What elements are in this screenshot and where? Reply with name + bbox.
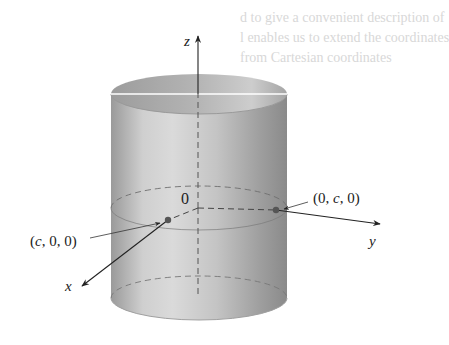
cylinder: [111, 74, 287, 320]
y-axis-label: y: [367, 233, 376, 249]
point-c-0-0-label: (c, 0, 0): [30, 233, 77, 250]
origin-label: 0: [181, 190, 189, 207]
z-axis-label: z: [183, 33, 190, 49]
point-0-c-0-label: (0, c, 0): [313, 190, 360, 207]
x-axis-label: x: [64, 278, 72, 294]
